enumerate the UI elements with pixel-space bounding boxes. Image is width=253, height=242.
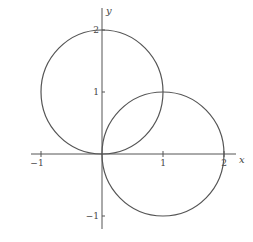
chart: −112−112 x y: [0, 0, 253, 242]
x-tick-label: 1: [160, 158, 166, 168]
y-tick-label: 1: [93, 87, 99, 97]
y-tick-label: −1: [86, 211, 99, 221]
y-axis-label: y: [105, 5, 112, 16]
x-axis-label: x: [239, 154, 245, 165]
x-tick-label: −1: [30, 158, 43, 168]
